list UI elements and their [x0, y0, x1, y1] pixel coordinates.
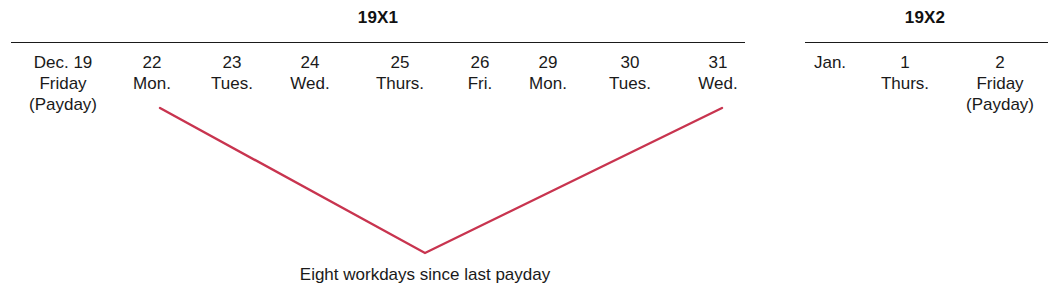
- payroll-calendar-figure: 19X1 19X2 Dec. 19 Friday (Payday) 22 Mon…: [0, 0, 1062, 300]
- day-column-24: 24 Wed.: [265, 52, 355, 94]
- day-column-day: Mon.: [503, 73, 593, 94]
- day-column-date: 30: [585, 52, 675, 73]
- day-columns: Dec. 19 Friday (Payday) 22 Mon. 23 Tues.…: [0, 52, 1062, 142]
- day-column-day: Mon.: [107, 73, 197, 94]
- day-column-day: Wed.: [265, 73, 355, 94]
- group-rule-19x1: [11, 42, 745, 43]
- day-column-jan-2: 2 Friday (Payday): [945, 52, 1055, 115]
- day-column-day: Thurs.: [857, 73, 953, 94]
- day-column-30: 30 Tues.: [585, 52, 675, 94]
- day-column-day: Friday: [945, 73, 1055, 94]
- day-column-day: Friday: [8, 73, 118, 94]
- day-column-date: 25: [352, 52, 448, 73]
- day-column-31: 31 Wed.: [673, 52, 763, 94]
- day-column-date: 1: [857, 52, 953, 73]
- day-column-date: 29: [503, 52, 593, 73]
- day-column-date: 22: [107, 52, 197, 73]
- day-column-dec-19: Dec. 19 Friday (Payday): [8, 52, 118, 115]
- day-column-note: (Payday): [945, 94, 1055, 115]
- day-column-day: Wed.: [673, 73, 763, 94]
- year-heading-19x1: 19X1: [318, 8, 438, 28]
- day-column-29: 29 Mon.: [503, 52, 593, 94]
- day-column-day: Tues.: [187, 73, 277, 94]
- day-column-jan-1: 1 Thurs.: [857, 52, 953, 94]
- day-column-date: 31: [673, 52, 763, 73]
- day-column-23: 23 Tues.: [187, 52, 277, 94]
- day-column-date: 23: [187, 52, 277, 73]
- year-heading-19x2: 19X2: [865, 8, 985, 28]
- day-column-date: Dec. 19: [8, 52, 118, 73]
- day-column-note: (Payday): [8, 94, 118, 115]
- day-column-date: 2: [945, 52, 1055, 73]
- day-column-25: 25 Thurs.: [352, 52, 448, 94]
- group-rule-19x2: [805, 42, 1048, 43]
- day-column-day: Thurs.: [352, 73, 448, 94]
- day-column-22: 22 Mon.: [107, 52, 197, 94]
- day-column-day: Tues.: [585, 73, 675, 94]
- day-column-date: 24: [265, 52, 355, 73]
- workday-span-connector: [0, 0, 1062, 300]
- connector-caption: Eight workdays since last payday: [225, 264, 625, 285]
